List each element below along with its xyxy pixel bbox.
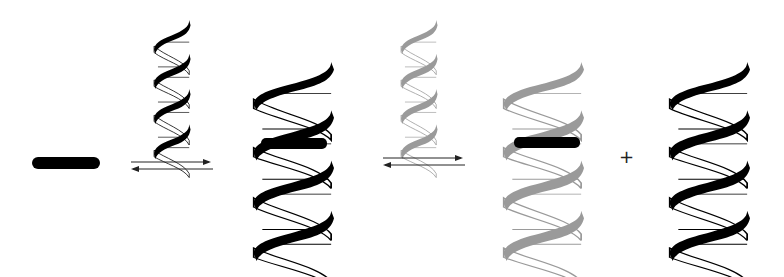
helix-small-gray	[388, 20, 448, 160]
ligand-bound-1	[261, 138, 327, 149]
helix-small-black	[141, 20, 201, 160]
ligand-free	[32, 157, 100, 169]
helix-black-with-ligand	[248, 62, 334, 262]
equilibrium-arrows-1	[130, 160, 214, 172]
plus-sign: +	[619, 148, 634, 166]
ligand-bound-2	[514, 137, 580, 148]
helix-gray-with-ligand	[498, 62, 584, 262]
helix-black-product	[664, 62, 750, 262]
equilibrium-arrows-2	[382, 156, 466, 168]
